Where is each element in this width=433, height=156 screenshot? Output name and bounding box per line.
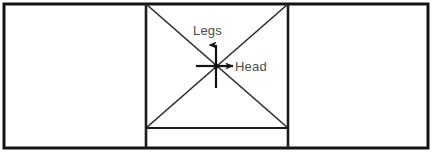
legs-axis-label: Legs (193, 23, 222, 38)
head-axis-label: Head (235, 59, 267, 74)
figure-diagram: Legs Head (0, 0, 433, 156)
figure-container: Legs Head (0, 0, 433, 156)
origin-dot (213, 63, 218, 68)
